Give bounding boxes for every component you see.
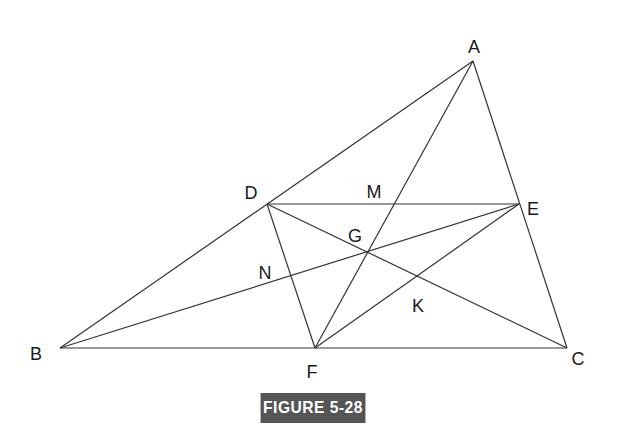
point-label-g: G	[348, 226, 362, 246]
point-label-k: K	[412, 296, 424, 316]
triangle-diagram: ABCDEFGMNK	[0, 0, 628, 447]
point-label-d: D	[245, 183, 258, 203]
point-label-a: A	[468, 37, 480, 57]
segment-be	[60, 204, 519, 348]
segments-group	[60, 61, 567, 348]
point-label-c: C	[572, 349, 585, 369]
point-label-n: N	[259, 263, 272, 283]
point-label-f: F	[307, 362, 318, 382]
figure-caption: FIGURE 5-28	[261, 393, 366, 423]
segment-ef	[315, 204, 519, 348]
point-label-b: B	[30, 344, 42, 364]
point-label-m: M	[367, 182, 382, 202]
point-label-e: E	[527, 199, 539, 219]
